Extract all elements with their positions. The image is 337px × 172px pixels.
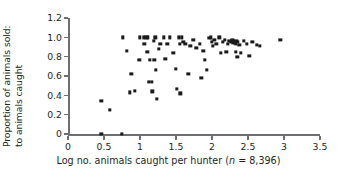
data-point — [194, 46, 197, 49]
data-point — [120, 132, 123, 135]
data-point — [174, 68, 177, 71]
x-axis-label: Log no. animals caught per hunter (n = 8… — [0, 155, 337, 166]
data-point — [158, 43, 161, 46]
data-point — [128, 91, 131, 94]
data-point — [166, 43, 169, 46]
data-point — [235, 55, 238, 58]
data-point — [121, 36, 124, 39]
data-point — [152, 40, 155, 43]
data-point — [153, 36, 156, 39]
data-point — [184, 43, 187, 46]
data-point — [187, 72, 190, 75]
x-axis-tick-label: 2 — [209, 142, 215, 151]
data-point — [219, 51, 222, 54]
data-point — [146, 36, 149, 39]
data-point — [245, 43, 248, 46]
data-point — [163, 57, 166, 60]
data-point — [125, 49, 128, 52]
data-point — [145, 50, 148, 53]
data-point — [153, 58, 156, 61]
data-point — [223, 39, 226, 42]
x-axis-tick-label: 2.5 — [241, 142, 256, 151]
data-point — [225, 50, 228, 53]
data-point — [215, 43, 218, 46]
data-point — [154, 69, 157, 72]
data-point — [203, 58, 206, 61]
data-point — [279, 39, 282, 42]
data-point — [150, 80, 153, 83]
data-point — [192, 39, 195, 42]
data-point — [248, 54, 251, 57]
data-point — [189, 44, 192, 47]
data-point — [180, 36, 183, 39]
x-axis-tick-label: 1 — [137, 142, 143, 151]
data-point — [143, 43, 146, 46]
data-point — [130, 72, 133, 75]
x-axis-label-prefix: Log no. animals caught per hunter ( — [57, 155, 229, 166]
data-point — [157, 47, 160, 50]
data-point — [108, 108, 111, 111]
data-point — [212, 39, 215, 42]
data-point — [217, 36, 220, 39]
data-point — [258, 44, 261, 47]
x-axis-tick-label: 0.5 — [97, 142, 112, 151]
data-point — [138, 58, 141, 61]
data-point — [148, 58, 151, 61]
x-axis-label-suffix: = 8,396) — [235, 155, 280, 166]
data-point — [202, 49, 205, 52]
data-point — [171, 51, 174, 54]
x-axis-tick-label: 0 — [65, 142, 71, 151]
data-point — [99, 100, 102, 103]
data-point — [162, 36, 165, 39]
data-point — [238, 43, 241, 46]
data-point — [199, 76, 202, 79]
data-point — [239, 51, 242, 54]
data-point — [175, 87, 178, 90]
data-point — [234, 50, 237, 53]
x-axis-tick-labels: 00.511.522.533.5 — [0, 0, 337, 172]
data-point — [168, 36, 171, 39]
x-axis-tick-label: 1.5 — [169, 142, 184, 151]
data-point — [198, 43, 201, 46]
x-axis-tick-label: 3.5 — [313, 142, 328, 151]
data-point — [205, 69, 208, 72]
data-point — [151, 90, 154, 93]
data-point — [179, 92, 182, 95]
x-axis-tick-label: 3 — [281, 142, 287, 151]
scatter-plot-figure: Proportion of animals sold: to animals c… — [0, 0, 337, 172]
data-point — [155, 98, 158, 101]
data-point — [133, 89, 136, 92]
data-point — [251, 41, 254, 44]
data-point — [99, 132, 102, 135]
